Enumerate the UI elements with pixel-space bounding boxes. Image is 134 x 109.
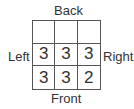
stack-count-grid: 3 3 3 3 3 2 — [32, 20, 101, 90]
grid-cell — [55, 21, 77, 44]
grid-cell: 3 — [78, 44, 100, 67]
label-left: Left — [8, 50, 30, 63]
grid-cell: 3 — [33, 66, 55, 89]
label-back: Back — [54, 4, 83, 17]
grid-cell — [33, 21, 55, 44]
grid-cell: 3 — [55, 44, 77, 67]
grid-cell — [78, 21, 100, 44]
label-right: Right — [103, 50, 133, 63]
grid-cell: 3 — [55, 66, 77, 89]
label-front: Front — [51, 92, 81, 105]
grid-cell: 3 — [33, 44, 55, 67]
grid-cell: 2 — [78, 66, 100, 89]
